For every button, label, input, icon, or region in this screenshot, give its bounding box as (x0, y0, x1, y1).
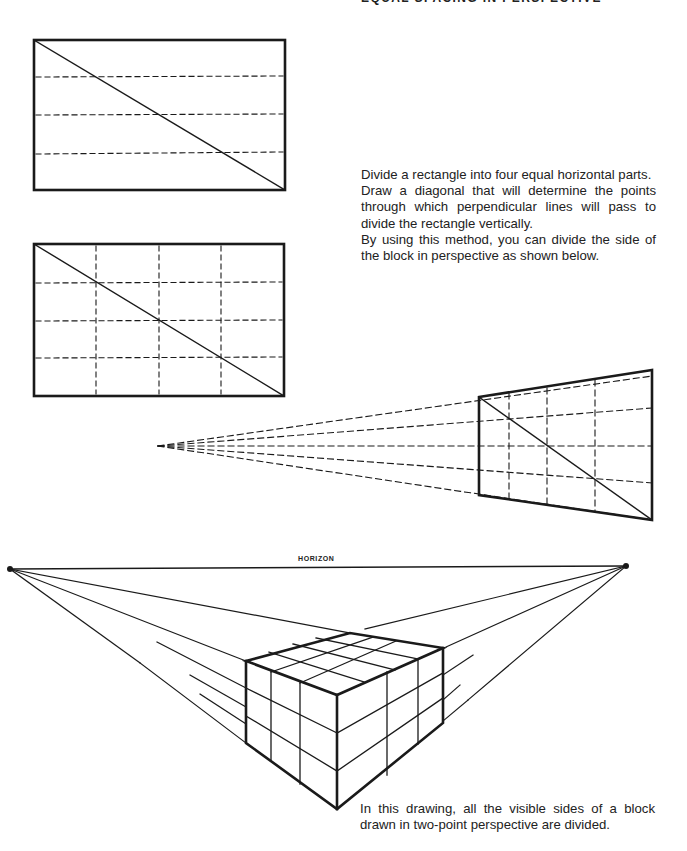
horizon-line (10, 566, 626, 569)
instruction-step-3: By using this method, you can divide the… (361, 232, 656, 264)
instructions-text: Divide a rectangle into four equal horiz… (361, 167, 656, 264)
instruction-step-2: Draw a diagonal that will determine the … (361, 183, 656, 232)
figure-rectangle-grid (34, 244, 284, 396)
figure-two-point-block (7, 563, 629, 809)
horizon-label: HORIZON (298, 555, 334, 562)
figure-rectangle-horizontal (34, 40, 285, 190)
caption-text: In this drawing, all the visible sides o… (360, 801, 655, 833)
diagram-canvas (0, 0, 687, 851)
figure-perspective-panel (158, 370, 652, 520)
figure-caption: In this drawing, all the visible sides o… (360, 801, 655, 833)
instruction-step-1: Divide a rectangle into four equal horiz… (361, 167, 656, 183)
